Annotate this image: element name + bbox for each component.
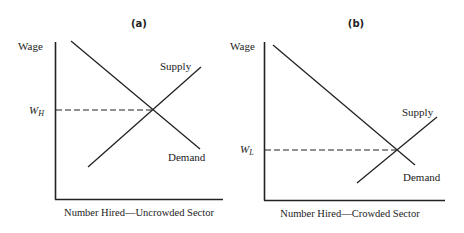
panel-b-demand-label: Demand [403, 171, 441, 183]
panel-b-title: (b) [348, 18, 364, 29]
panel-b-y-axis-label: Wage [230, 40, 255, 52]
panel-a-demand-label: Demand [168, 151, 206, 163]
panel-a-y-axis-label: Wage [18, 40, 43, 52]
panel-a-demand-curve [71, 41, 200, 149]
panel-b-wage-label: WL [240, 143, 254, 157]
panel-a-supply-label: Supply [160, 60, 192, 72]
panel-a: (a) Wage WH Supply Demand Number Hired—U… [18, 18, 223, 218]
panel-b-x-axis-label: Number Hired—Crowded Sector [280, 208, 420, 219]
panel-a-title: (a) [131, 18, 147, 29]
panel-b: (b) Wage WL Supply Demand Number Hired—C… [230, 18, 445, 219]
supply-demand-diagram: (a) Wage WH Supply Demand Number Hired—U… [0, 0, 464, 233]
panel-a-wage-label: WH [29, 104, 45, 118]
panel-a-x-axis-label: Number Hired—Uncrowded Sector [64, 207, 214, 218]
panel-b-supply-label: Supply [402, 106, 434, 118]
panel-b-demand-curve [273, 45, 415, 165]
